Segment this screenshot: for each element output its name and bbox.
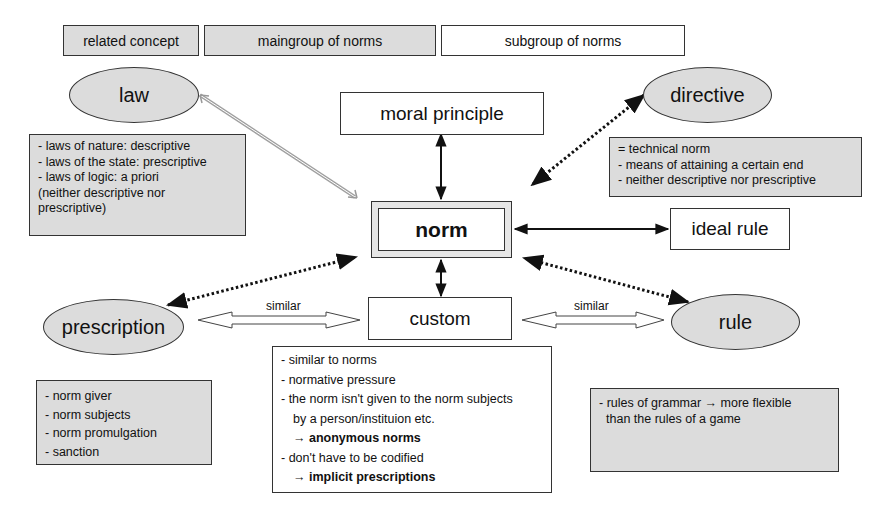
notes-law: - laws of nature: descriptive - laws of … — [29, 134, 246, 236]
emphasis-anonymous-norms: anonymous norms — [309, 431, 421, 445]
node-norm-inner: norm — [378, 208, 505, 251]
node-directive-label: directive — [670, 84, 744, 107]
notes-law-line: - laws of nature: descriptive — [38, 139, 237, 155]
notes-custom-line: - don't have to be codified — [281, 449, 543, 469]
notes-law-line: - laws of logic: a priori — [38, 170, 237, 186]
notes-directive-line: - neither descriptive nor prescriptive — [618, 173, 853, 189]
legend-maingroup-label: maingroup of norms — [258, 33, 383, 49]
notes-prescription-line: - sanction — [45, 443, 203, 462]
node-rule: rule — [671, 294, 800, 350]
notes-directive-line: = technical norm — [618, 142, 853, 158]
notes-directive: = technical norm - means of attaining a … — [609, 137, 862, 197]
arrow-right-icon: → — [293, 431, 309, 445]
edge-label-similar-left: similar — [266, 299, 301, 313]
notes-custom-line: - normative pressure — [281, 371, 543, 391]
legend-maingroup: maingroup of norms — [204, 25, 436, 56]
notes-prescription-line: - norm giver — [45, 387, 203, 406]
node-law-label: law — [119, 84, 149, 107]
custom-rule-similar-arrow — [522, 312, 664, 328]
legend-related-concept: related concept — [63, 25, 199, 56]
notes-law-line: prescriptive) — [38, 201, 237, 217]
node-ideal-rule-label: ideal rule — [691, 218, 768, 240]
legend-related-concept-label: related concept — [83, 33, 179, 49]
notes-law-line: (neither descriptive nor — [38, 186, 237, 202]
node-moral-principle-label: moral principle — [380, 103, 504, 125]
rule-norm-arrow — [524, 258, 688, 302]
notes-directive-line: - means of attaining a certain end — [618, 158, 853, 174]
notes-law-line: - laws of the state: prescriptive — [38, 155, 237, 171]
node-norm: norm — [371, 201, 512, 258]
prescription-norm-arrow — [168, 257, 356, 305]
notes-custom-line: - the norm isn't given to the norm subje… — [281, 390, 543, 410]
legend-subgroup-label: subgroup of norms — [505, 33, 622, 49]
notes-custom-line: - similar to norms — [281, 351, 543, 371]
node-norm-label: norm — [415, 218, 468, 242]
arrow-right-icon: → — [293, 470, 309, 484]
notes-rule-line: than the rules of a game — [599, 412, 830, 428]
emphasis-implicit-prescriptions: implicit prescriptions — [309, 470, 435, 484]
notes-custom-line: by a person/instituion etc. — [281, 410, 543, 430]
node-custom-label: custom — [409, 308, 470, 330]
notes-custom: - similar to norms - normative pressure … — [272, 346, 552, 493]
notes-prescription-line: - norm promulgation — [45, 424, 203, 443]
node-directive: directive — [643, 67, 772, 123]
notes-custom-line-implicit: → implicit prescriptions — [281, 468, 543, 488]
node-prescription-label: prescription — [62, 316, 165, 339]
notes-prescription-line: - norm subjects — [45, 406, 203, 425]
prescription-custom-similar-arrow — [198, 312, 360, 328]
node-moral-principle: moral principle — [340, 92, 544, 135]
legend-subgroup: subgroup of norms — [441, 25, 685, 56]
node-rule-label: rule — [719, 311, 752, 334]
node-ideal-rule: ideal rule — [670, 208, 790, 250]
node-prescription: prescription — [43, 299, 184, 355]
notes-custom-line-anonymous: → anonymous norms — [281, 429, 543, 449]
node-law: law — [69, 67, 199, 123]
notes-prescription: - norm giver - norm subjects - norm prom… — [36, 380, 212, 465]
notes-rule-line: - rules of grammar → more flexible — [599, 396, 830, 412]
notes-rule: - rules of grammar → more flexible than … — [590, 388, 839, 472]
edge-label-similar-right: similar — [574, 299, 609, 313]
node-custom: custom — [368, 297, 512, 340]
